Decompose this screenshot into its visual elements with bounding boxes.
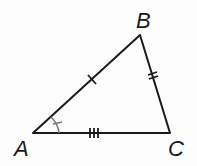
angle-tick-a xyxy=(53,122,62,124)
label-a: A xyxy=(12,136,29,161)
angle-arc-a xyxy=(51,117,59,133)
triangle-figure: A B C xyxy=(0,0,197,166)
triangle-diagram: A B C xyxy=(0,0,197,166)
label-b: B xyxy=(136,8,151,33)
label-c: C xyxy=(168,136,184,161)
triangle-abc xyxy=(33,35,170,133)
